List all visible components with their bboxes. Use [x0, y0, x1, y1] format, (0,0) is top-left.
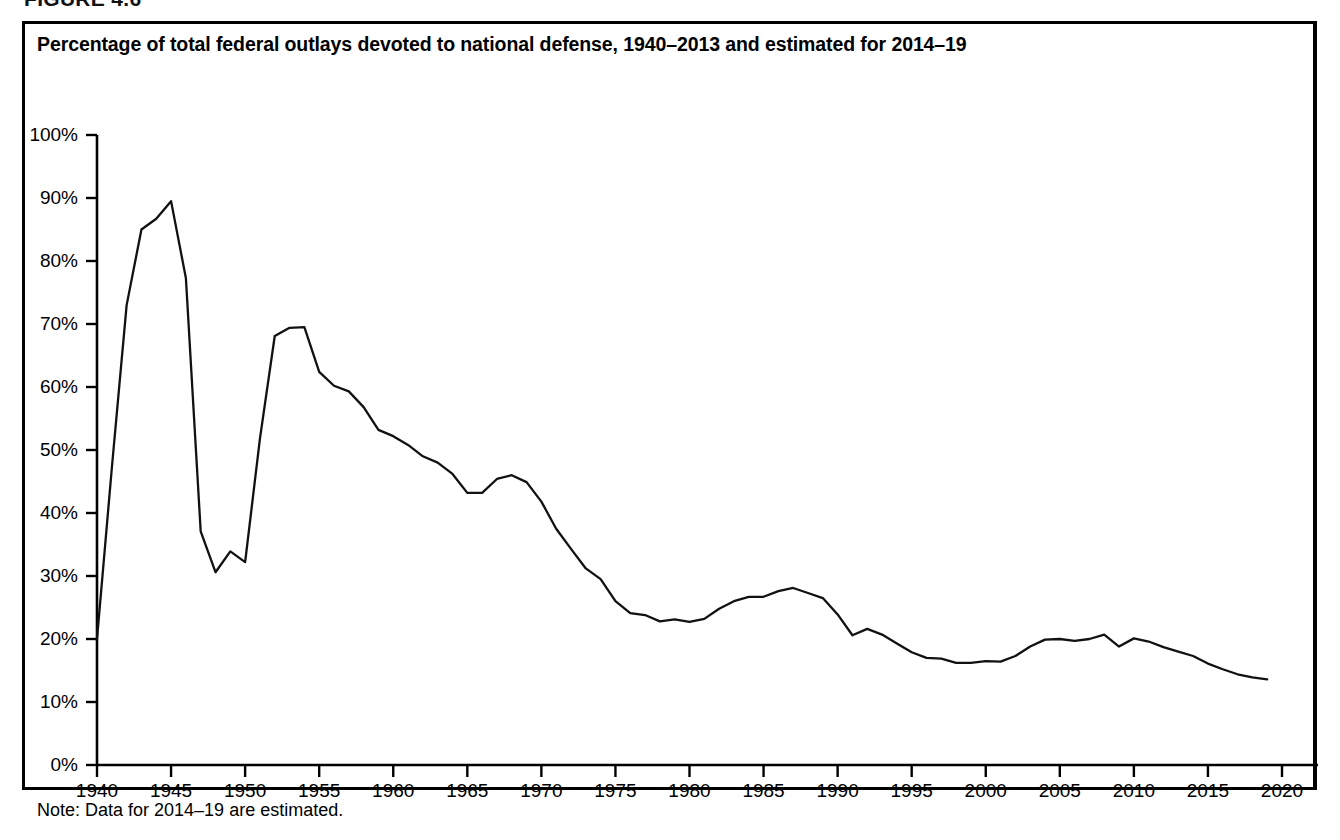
- y-axis-tick-label: 90%: [18, 188, 78, 207]
- y-axis-tick-label: 50%: [18, 440, 78, 459]
- y-axis-tick-label: 0%: [18, 755, 78, 774]
- chart-note: Note: Data for 2014–19 are estimated.: [37, 800, 343, 821]
- y-axis-tick-label: 20%: [18, 629, 78, 648]
- y-axis-tick-label: 30%: [18, 566, 78, 585]
- y-axis-tick-label: 40%: [18, 503, 78, 522]
- chart-title: Percentage of total federal outlays devo…: [37, 33, 967, 56]
- figure-root: FIGURE 4.6 Percentage of total federal o…: [0, 0, 1340, 840]
- x-axis-tick-label: 2020: [1237, 781, 1327, 800]
- y-axis-tick-label: 10%: [18, 692, 78, 711]
- y-axis-tick-label: 60%: [18, 377, 78, 396]
- y-axis-tick-label: 80%: [18, 251, 78, 270]
- figure-number-label: FIGURE 4.6: [24, 0, 141, 7]
- y-axis-tick-label: 100%: [18, 125, 78, 144]
- figure-border-box: [22, 21, 1317, 790]
- y-axis-tick-label: 70%: [18, 314, 78, 333]
